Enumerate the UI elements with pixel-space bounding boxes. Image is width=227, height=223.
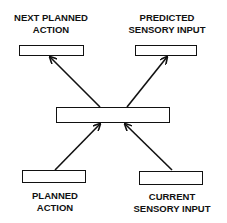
label-line: ACTION xyxy=(10,24,92,36)
arrow-planned-to-center xyxy=(55,124,100,170)
arrow-center-to-predicted xyxy=(127,57,167,107)
next-planned-action-box xyxy=(19,45,84,56)
current-sensory-input-box xyxy=(139,171,203,185)
planned-action-box xyxy=(22,170,86,183)
label-line: ACTION xyxy=(20,202,90,214)
next-planned-action-label: NEXT PLANNED ACTION xyxy=(10,12,92,36)
planned-action-label: PLANNED ACTION xyxy=(20,190,90,214)
label-line: NEXT PLANNED xyxy=(10,12,92,24)
arrow-current-to-center xyxy=(125,124,172,170)
label-line: SENSORY INPUT xyxy=(124,24,210,36)
central-model-box xyxy=(56,107,170,123)
label-line: PREDICTED xyxy=(124,12,210,24)
predicted-sensory-input-box xyxy=(135,45,197,56)
current-sensory-input-label: CURRENT SENSORY INPUT xyxy=(128,191,216,215)
label-line: SENSORY INPUT xyxy=(128,203,216,215)
predicted-sensory-input-label: PREDICTED SENSORY INPUT xyxy=(124,12,210,36)
label-line: CURRENT xyxy=(128,191,216,203)
label-line: PLANNED xyxy=(20,190,90,202)
arrow-center-to-next-action xyxy=(50,57,100,107)
